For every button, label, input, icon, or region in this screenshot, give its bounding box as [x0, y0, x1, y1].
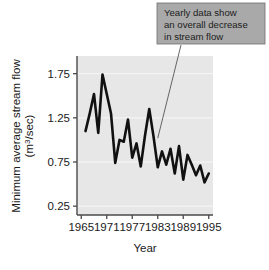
x-axis-tick-label: 1965: [68, 221, 94, 233]
y-axis-title-line1: Minimum average stream flow: [10, 59, 22, 213]
chart-canvas: 0.250.751.251.75 19651971197719831989199…: [0, 0, 269, 270]
y-axis-tick-labels: 0.250.751.251.75: [48, 68, 70, 213]
y-axis-title-line2: (m3/sec): [23, 114, 36, 157]
callout-text-line-1: Yearly data show: [164, 7, 237, 18]
x-axis-tick-label: 1995: [196, 221, 222, 233]
y-axis-unit-suffix: /sec): [23, 114, 35, 139]
y-axis-tick-label: 1.75: [48, 68, 70, 80]
x-axis-tick-label: 1983: [145, 221, 171, 233]
y-axis-tick-label: 0.25: [48, 200, 70, 212]
y-axis-unit: (m3/sec): [23, 114, 36, 157]
x-axis-tick-label: 1989: [170, 221, 196, 233]
x-axis-tick-label: 1971: [94, 221, 120, 233]
x-axis-title: Year: [133, 242, 156, 254]
x-axis-tick-label: 1977: [119, 221, 145, 233]
y-axis-tick-label: 0.75: [48, 156, 70, 168]
callout-text-line-2: an overall decrease: [164, 19, 248, 30]
x-axis-tick-labels: 196519711977198319891995: [68, 221, 221, 233]
y-axis-tick-label: 1.25: [48, 112, 70, 124]
y-axis-title-group: Minimum average stream flow (m3/sec): [10, 59, 35, 213]
stream-flow-figure: 0.250.751.251.75 19651971197719831989199…: [0, 0, 269, 270]
y-axis-unit-prefix: (m: [23, 144, 35, 157]
callout-text-line-3: in stream flow: [164, 31, 223, 42]
